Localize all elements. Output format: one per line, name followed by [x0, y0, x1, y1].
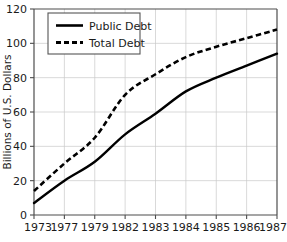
y-tick-label: 120 — [6, 3, 27, 16]
y-tick-label: 20 — [13, 175, 27, 188]
y-tick-label: 100 — [6, 37, 27, 50]
x-tick-label: 1977 — [50, 221, 78, 234]
x-tick-label: 1979 — [81, 221, 109, 234]
x-tick-label: 1973 — [24, 221, 52, 234]
x-tick-label: 1982 — [111, 221, 139, 234]
y-tick-label: 80 — [13, 72, 27, 85]
x-tick-label: 1985 — [202, 221, 230, 234]
legend-label-total-debt: Total Debt — [88, 37, 145, 50]
x-tick-label: 1984 — [172, 221, 200, 234]
y-tick-label: 40 — [13, 140, 27, 153]
x-tick-label: 1987 — [259, 221, 287, 234]
y-axis-title: Billions of U.S. Dollars — [1, 54, 13, 169]
x-axis-tick-labels: 197319771979198219831984198519861987 — [24, 221, 287, 234]
y-tick-label: 60 — [13, 106, 27, 119]
chart-legend[interactable]: Public Debt Total Debt — [48, 13, 152, 54]
line-chart: 020406080100120 197319771979198219831984… — [0, 0, 287, 242]
x-tick-label: 1983 — [142, 221, 170, 234]
x-tick-label: 1986 — [233, 221, 261, 234]
legend-label-public-debt: Public Debt — [89, 20, 152, 33]
chart-figure: 020406080100120 197319771979198219831984… — [0, 0, 287, 242]
